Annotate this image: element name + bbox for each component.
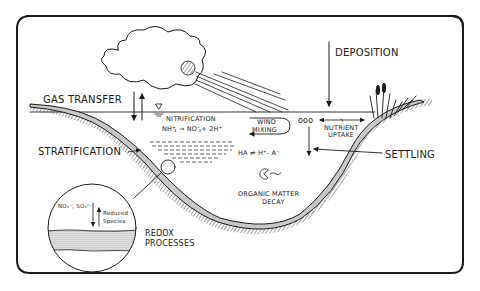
- wind-rays: [195, 72, 288, 112]
- phytoplankton-icon: ooo: [298, 116, 313, 125]
- redox-inset: NO₃⁻, SO₄²⁻ Reduced Species: [46, 184, 140, 272]
- nutrient-uptake-label-2: UPTAKE: [328, 131, 354, 139]
- cloud-icon: [101, 26, 205, 89]
- gas-transfer-arrows: [134, 92, 142, 120]
- water-level-icon: [155, 104, 163, 116]
- lake-processes-diagram: GAS TRANSFER DEPOSITION NITRIFICATION NH…: [0, 0, 480, 291]
- decay-label: DECAY: [262, 198, 285, 206]
- svg-text:WIND: WIND: [257, 118, 276, 126]
- svg-text:NH+4 → NO−3+ 2H+: NH+4 → NO−3+ 2H+: [162, 125, 222, 133]
- settling-arrow: [314, 149, 382, 153]
- settling-label: SETTLING: [385, 149, 435, 160]
- deposition-label: DEPOSITION: [335, 47, 399, 58]
- nitrification-equation: NH+4 → NO−3+ 2H+: [162, 125, 222, 133]
- wind-mixing: WIND MIXING: [250, 118, 290, 134]
- svg-text:Species: Species: [103, 218, 126, 225]
- svg-text:NO₃⁻, SO₄²⁻: NO₃⁻, SO₄²⁻: [58, 203, 92, 209]
- svg-text:MIXING: MIXING: [252, 126, 277, 134]
- stratification-label: STRATIFICATION: [38, 146, 121, 157]
- redox-label-2: PROCESSES: [145, 239, 194, 248]
- stratification-lines: [150, 142, 236, 162]
- gas-transfer-label: GAS TRANSFER: [43, 94, 122, 105]
- svg-text:Reduced: Reduced: [103, 210, 128, 216]
- decomposer-icon: [260, 169, 281, 179]
- nitrification-label: NITRIFICATION: [166, 115, 216, 123]
- acid-equilibrium-label: HA ⇌ H⁺- A⁻: [238, 149, 280, 157]
- redox-label-1: REDOX: [145, 229, 174, 238]
- nutrient-uptake-arrow: [320, 119, 364, 121]
- sediment-zoom-marker: [161, 160, 175, 174]
- lake-bed: [30, 100, 424, 229]
- organic-matter-label: ORGANIC MATTER: [238, 190, 300, 198]
